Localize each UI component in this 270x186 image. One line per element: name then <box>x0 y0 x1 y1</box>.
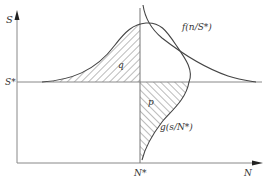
s-star-label: S* <box>5 77 16 87</box>
q-region-label: q <box>118 60 124 70</box>
supply-demand-diagram: S S* N N* f(n/S*) g(s/N*) q p <box>0 0 270 186</box>
f-curve <box>143 5 256 82</box>
n-axis-arrow-icon <box>252 161 263 166</box>
n-axis-label: N <box>243 168 253 178</box>
g-curve-label: g(s/N*) <box>160 122 193 132</box>
s-axis-label: S <box>6 14 13 25</box>
n-star-label: N* <box>133 168 147 178</box>
region-q <box>42 22 140 82</box>
p-region-label: p <box>148 97 154 107</box>
s-axis-arrow-icon <box>15 10 20 20</box>
f-curve-label: f(n/S*) <box>181 22 212 32</box>
region-p <box>140 82 189 160</box>
